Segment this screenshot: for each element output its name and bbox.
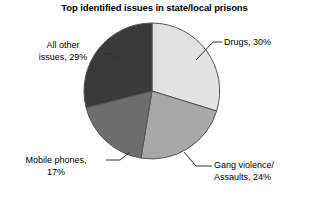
pie-label-gang-violence-assaults-line1: Gang violence/ bbox=[214, 160, 274, 172]
pie-label-mobile-phones-line1: Mobile phones, bbox=[6, 155, 106, 167]
pie-label-drugs-line1: Drugs, 30% bbox=[224, 37, 271, 49]
pie-label-all-other-issues-line1: All other bbox=[20, 40, 106, 52]
pie-label-mobile-phones-line2: 17% bbox=[6, 167, 106, 179]
pie-label-mobile-phones: Mobile phones, 17% bbox=[6, 155, 106, 178]
pie-label-gang-violence-assaults-line2: Assaults, 24% bbox=[214, 172, 274, 184]
pie-label-all-other-issues: All other issues, 29% bbox=[20, 40, 106, 63]
leader-line-gang-violence-assaults bbox=[184, 152, 212, 166]
pie-label-gang-violence-assaults: Gang violence/ Assaults, 24% bbox=[214, 160, 274, 183]
pie-label-drugs: Drugs, 30% bbox=[224, 37, 271, 49]
pie-chart-screenshot: Top identified issues in state/local pri… bbox=[0, 0, 309, 199]
pie-label-all-other-issues-line2: issues, 29% bbox=[20, 52, 106, 64]
